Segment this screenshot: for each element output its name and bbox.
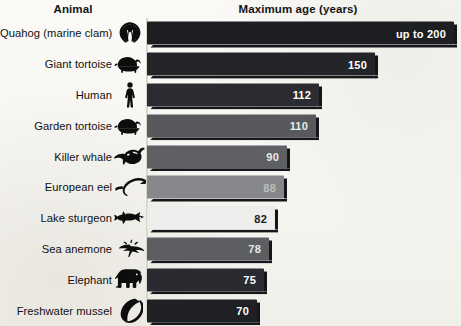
bar-track: up to 200 [147, 18, 461, 49]
bar-value-label: up to 200 [396, 27, 454, 39]
animal-label-wrap: European eel [0, 172, 112, 203]
bar-value-label: 88 [263, 181, 284, 193]
bar-value-label: 70 [236, 305, 257, 317]
human-icon [114, 82, 146, 108]
bar[interactable]: 70 [147, 299, 257, 322]
bar-track: 78 [147, 234, 461, 265]
animal-label-wrap: Killer whale [0, 141, 112, 172]
animal-label-wrap: Sea anemone [0, 234, 112, 265]
bar-value-label: 82 [254, 212, 275, 224]
bar-value-label: 110 [290, 120, 316, 132]
eel-icon [114, 174, 146, 200]
bar-track: 112 [147, 80, 461, 111]
bar[interactable]: 150 [147, 53, 375, 76]
bar-value-label: 112 [293, 89, 319, 101]
animal-label-wrap: Elephant [0, 264, 112, 295]
column-header-animal: Animal [0, 3, 146, 15]
chart-row: Human 112 [0, 80, 461, 111]
anemone-icon [114, 236, 146, 262]
chart-row: Quahog (marine clam) up to 200 [0, 18, 461, 49]
bar-track: 90 [147, 141, 461, 172]
bar-value-label: 75 [243, 274, 264, 286]
clam-shell-icon [114, 20, 146, 46]
elephant-icon [114, 267, 146, 293]
bar-track: 110 [147, 110, 461, 141]
tortoise-icon [114, 51, 146, 77]
animal-label-wrap: Giant tortoise [0, 49, 112, 80]
chart-row: European eel 88 [0, 172, 461, 203]
chart-row: Freshwater mussel 70 [0, 295, 461, 326]
animal-label-wrap: Freshwater mussel [0, 295, 112, 326]
animal-label: Freshwater mussel [0, 305, 112, 317]
orca-icon [114, 144, 146, 170]
bar-track: 82 [147, 203, 461, 234]
bar[interactable]: up to 200 [147, 22, 454, 45]
bar-value-label: 78 [248, 243, 269, 255]
chart-row: Giant tortoise 150 [0, 49, 461, 80]
chart-row: Garden tortoise 110 [0, 110, 461, 141]
animal-label: Quahog (marine clam) [0, 27, 112, 39]
chart-row: Sea anemone 78 [0, 234, 461, 265]
bar-track: 88 [147, 172, 461, 203]
sturgeon-icon [114, 205, 146, 231]
bar-value-label: 90 [266, 151, 287, 163]
bar[interactable]: 75 [147, 268, 264, 291]
animal-label: Garden tortoise [0, 120, 112, 132]
column-header-maximum-age: Maximum age (years) [148, 3, 448, 15]
animal-label-wrap: Garden tortoise [0, 110, 112, 141]
animal-label-wrap: Quahog (marine clam) [0, 18, 112, 49]
animal-label: Killer whale [0, 151, 112, 163]
bar-value-label: 150 [348, 58, 375, 70]
chart-row: Killer whale 90 [0, 141, 461, 172]
mussel-icon [114, 298, 146, 324]
bar[interactable]: 88 [147, 176, 284, 199]
chart-page: Animal Maximum age (years) Quahog (marin… [0, 0, 461, 326]
animal-label: Giant tortoise [0, 58, 112, 70]
bar-rows: Quahog (marine clam) up to 200Giant tort… [0, 18, 461, 326]
chart-row: Lake sturgeon 82 [0, 203, 461, 234]
animal-label: Elephant [0, 274, 112, 286]
animal-label: Lake sturgeon [0, 212, 112, 224]
tortoise-icon [114, 113, 146, 139]
animal-label: European eel [0, 181, 112, 193]
bar-track: 70 [147, 295, 461, 326]
chart-row: Elephant 75 [0, 264, 461, 295]
animal-label: Sea anemone [0, 243, 112, 255]
bar-track: 150 [147, 49, 461, 80]
bar[interactable]: 110 [147, 114, 316, 137]
bar[interactable]: 78 [147, 237, 269, 260]
animal-label-wrap: Human [0, 80, 112, 111]
animal-label-wrap: Lake sturgeon [0, 203, 112, 234]
bar[interactable]: 112 [147, 83, 319, 106]
bar[interactable]: 90 [147, 145, 287, 168]
bar[interactable]: 82 [147, 207, 275, 230]
animal-label: Human [0, 89, 112, 101]
bar-track: 75 [147, 264, 461, 295]
